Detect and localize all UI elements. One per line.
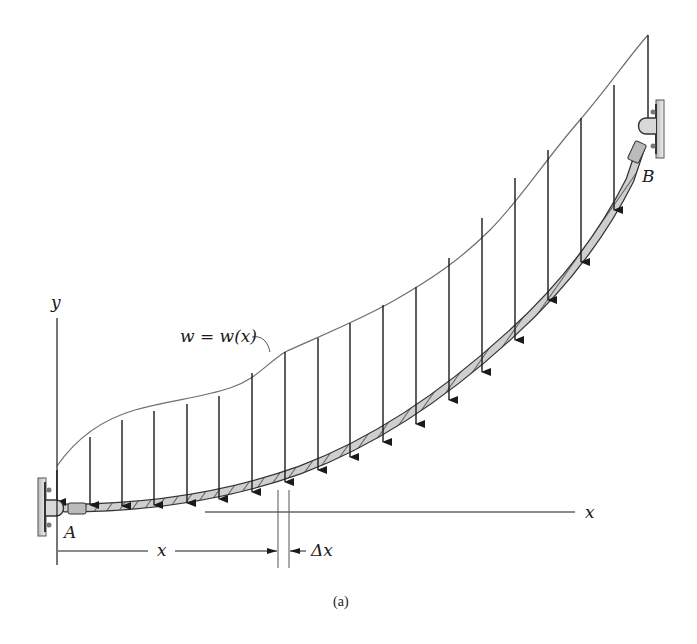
y-axis-label: y — [50, 292, 61, 312]
dim-x-label: x — [157, 540, 167, 560]
support-b — [627, 100, 664, 164]
cable-diagram: y x w = w(x) A B x Δx (a) — [0, 0, 697, 644]
support-a-label: A — [62, 522, 76, 542]
x-axis-label: x — [585, 502, 595, 522]
load-curve — [57, 35, 648, 466]
support-a — [38, 478, 86, 536]
load-label: w = w(x) — [180, 326, 257, 346]
dim-dx-label: Δx — [310, 540, 333, 560]
figure-caption: (a) — [333, 594, 349, 610]
support-b-label: B — [641, 166, 655, 186]
cable — [65, 150, 640, 508]
load-arrows — [57, 35, 648, 506]
